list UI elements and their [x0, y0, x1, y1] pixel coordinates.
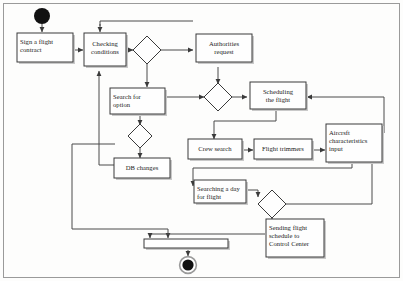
edge-top-rail: [100, 21, 193, 26]
initial-node: [34, 8, 50, 24]
activity-node-db-changes: [114, 158, 172, 180]
activity-node-sign-contract: [17, 33, 75, 64]
join-bar-node: [144, 239, 230, 250]
edge-decision4-to-scheduling: [286, 160, 372, 204]
activity-node-checking-conditions: [84, 33, 128, 68]
activity-node-searching-day-for-flight: [194, 180, 248, 205]
activity-node-flight-trimmers: [254, 139, 314, 161]
activity-node-scheduling-flight: [250, 82, 308, 111]
activity-diagram-canvas: Sign a flight contract Checking conditio…: [0, 0, 403, 281]
edge-scheduling-to-crew-search: [214, 110, 276, 139]
diagram-graphics: [0, 0, 403, 281]
activity-node-aircraft-characteristics-input: [326, 124, 384, 164]
decision-node-3: [128, 124, 152, 148]
decision-node-2: [204, 83, 232, 111]
edge-db-changes-to-checking: [99, 71, 115, 165]
edge-sending-schedule-to-join-bar: [150, 234, 265, 238]
decision-node-4: [258, 190, 286, 218]
activity-node-search-for-option: [110, 88, 167, 116]
final-node: [180, 257, 197, 274]
activity-node-sending-flight-schedule: [266, 219, 326, 259]
decision-node-1: [133, 36, 161, 64]
activity-node-crew-search: [188, 139, 244, 161]
activity-node-authorities-request: [196, 34, 254, 64]
